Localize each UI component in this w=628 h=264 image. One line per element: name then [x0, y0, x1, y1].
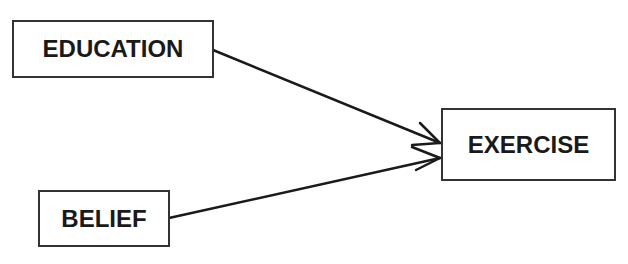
edge-education-to-exercise — [213, 50, 440, 145]
node-belief: BELIEF — [38, 190, 170, 247]
node-exercise: EXERCISE — [441, 108, 616, 181]
edge-belief-to-exercise — [169, 147, 440, 218]
node-label: EXERCISE — [468, 131, 589, 159]
node-label: EDUCATION — [43, 35, 184, 63]
node-education: EDUCATION — [12, 20, 214, 78]
node-label: BELIEF — [61, 205, 146, 233]
